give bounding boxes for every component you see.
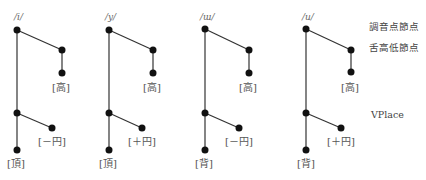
rounding-label: [＋円] bbox=[327, 137, 355, 147]
rounding-label: [－円] bbox=[38, 137, 66, 147]
vplace-label: VPlace bbox=[371, 110, 404, 120]
upper-feature-label: [高] bbox=[143, 83, 161, 93]
place-label: [頂] bbox=[7, 159, 25, 169]
rounding-label: [－円] bbox=[225, 137, 253, 147]
phoneme-label: /u/ bbox=[302, 13, 314, 22]
place-label: [頂] bbox=[99, 159, 117, 169]
upper-feature-label: [高] bbox=[52, 83, 70, 93]
place-label: [背] bbox=[195, 159, 213, 169]
phoneme-label: /y/ bbox=[105, 13, 116, 22]
upper-feature-label: [高] bbox=[239, 83, 257, 93]
phoneme-label: /ɯ/ bbox=[200, 13, 215, 22]
place-label: [背] bbox=[297, 159, 315, 169]
tongue-height-node-label: 舌高低節点 bbox=[369, 43, 419, 53]
upper-feature-label: [高] bbox=[341, 83, 359, 93]
phoneme-label: /i/ bbox=[14, 13, 23, 22]
articulator-node-label: 調音点節点 bbox=[369, 22, 419, 32]
rounding-label: [＋円] bbox=[128, 137, 156, 147]
